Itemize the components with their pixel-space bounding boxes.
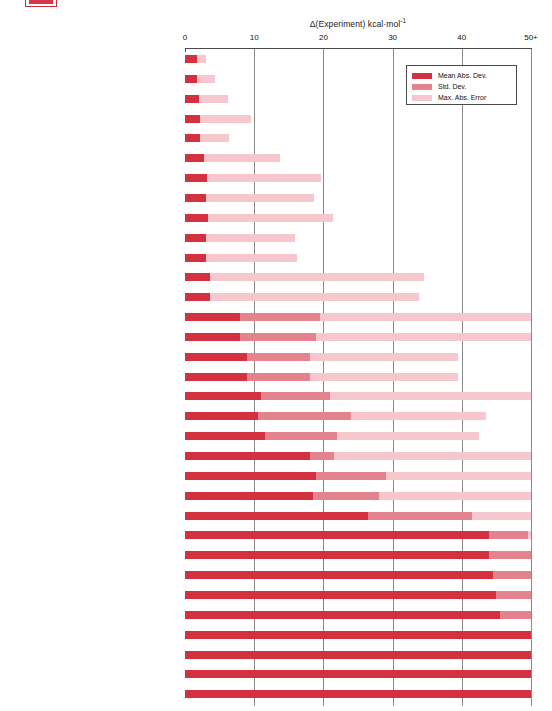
bar-row: MP2/6-31+G(d,p) // MP2/6-31+G(d,p) — [185, 412, 531, 420]
x-axis-title-superscript: -1 — [400, 17, 406, 24]
bar-segment-mad — [185, 174, 207, 182]
bar-segment-max — [185, 273, 424, 281]
x-axis-title: Δ(Experiment) kcal·mol-1 — [185, 17, 531, 29]
bar-row: B3LYP/6-311+G(2d,p) // B3LYP/6-31G(d) — [185, 194, 531, 202]
legend-label-max-abs-error: Max. Abs. Error — [438, 94, 486, 101]
bar-segment-mad — [185, 531, 489, 539]
bar-row: B3LYP/6-31G(d) // AM1 — [185, 392, 531, 400]
bar-row: B3LYP/6-311+G(3df,2df,2p) // B3LYP/6-31G… — [185, 154, 531, 162]
bar-row: B3LYP/6-31+G(d,p) // B3LYP/6-31+G(d,p) — [185, 273, 531, 281]
bar-row: SVWN/6-311+G(2d,p) // SVWN/6-311+G(2d,p) — [185, 512, 531, 520]
bar-segment-mad — [185, 591, 496, 599]
bar-row: HF/6-311+G(2d,p) // B3LYP/6-31G(d) — [185, 551, 531, 559]
bar-segment-mad — [185, 412, 258, 420]
bar-segment-mad — [185, 392, 261, 400]
x-axis-tick-label: 50+ — [524, 33, 538, 42]
bar-segment-mad — [185, 571, 493, 579]
bar-segment-mad — [185, 75, 197, 83]
bar-row: PM3 // PM3 — [185, 452, 531, 460]
bar-segment-mad — [185, 333, 240, 341]
bar-segment-mad — [185, 452, 310, 460]
bar-chart: Δ(Experiment) kcal·mol-1 01020304050+ CB… — [0, 0, 552, 711]
bar-segment-mad — [185, 512, 368, 520]
bar-row: MP2/6-31+G(d,p) // HF/6-31G(d) — [185, 432, 531, 440]
legend-item: Std. Dev. — [412, 81, 511, 92]
bar-segment-max — [185, 293, 419, 301]
bar-row: HF/6-31G(d) // HF/6-31G(d) — [185, 631, 531, 639]
x-axis-tick-label: 10 — [250, 33, 259, 42]
bar-segment-mad — [185, 353, 247, 361]
bar-row: HF/3-21G(d) // HF/3-21G(d) — [185, 670, 531, 678]
x-axis-tick-label: 40 — [457, 33, 466, 42]
x-axis-tick-label: 20 — [319, 33, 328, 42]
bar-row: HF/6-31+G(d,p) // HF/6-31+G(d,p) — [185, 591, 531, 599]
bar-segment-mad — [185, 293, 210, 301]
bar-row: HF/6-31G(d) // AM1 — [185, 651, 531, 659]
bar-segment-mad — [185, 154, 204, 162]
bar-segment-mad — [185, 492, 313, 500]
bar-row: HF/6-31+G(d,p) // AM1 — [185, 611, 531, 619]
legend-label-std-dev: Std. Dev. — [438, 83, 466, 90]
bar-row: B3LYP/6-31+G(d,p) // B3LYP/6-31G(d) — [185, 293, 531, 301]
bar-row: CBS-4 — [185, 134, 531, 142]
bar-row: HF/6-31+G(d,p) // HF/6-31G(d) — [185, 571, 531, 579]
chart-legend: Mean Abs. Dev. Std. Dev. Max. Abs. Error — [406, 65, 517, 105]
bar-segment-mad — [185, 472, 316, 480]
bar-segment-mad — [185, 551, 489, 559]
bar-segment-mad — [185, 254, 206, 262]
bar-row: B3LYP/6-311+G(2d,p) // HF/3-21G(d) — [185, 214, 531, 222]
legend-swatch-max-abs-error — [412, 95, 432, 101]
legend-swatch-std-dev — [412, 84, 432, 90]
bar-row: CBS-Q — [185, 55, 531, 63]
bar-segment-mad — [185, 214, 208, 222]
bar-segment-mad — [185, 432, 265, 440]
bar-segment-mad — [185, 611, 500, 619]
bar-row: MP2/6-311+G(2d,p) // B3LYP/6-31G(d) — [185, 353, 531, 361]
bar-row: B3LYP/6-31G(d) // HF/3–21G(d) — [185, 333, 531, 341]
bar-segment-mad — [185, 670, 531, 678]
plot-area: CBS-QG2G2(MP2)G1CBS-4B3LYP/6-311+G(3df,2… — [185, 49, 531, 706]
bar-segment-mad — [185, 373, 247, 381]
bar-segment-mad — [185, 273, 210, 281]
bar-row: MP2/6-311+G(2d,p) // MP2/6-311+G(2d,p) — [185, 373, 531, 381]
bar-segment-mad — [185, 234, 206, 242]
bar-segment-mad — [185, 115, 200, 123]
bar-row: HF/STO-3G // HF/STO-3G — [185, 690, 531, 698]
x-axis-tick-label: 30 — [388, 33, 397, 42]
bar-segment-mad — [185, 651, 531, 659]
bar-row: SVWN5/6-311+G(2d,p) // SVWN5/6-311+G(2d,… — [185, 472, 531, 480]
bar-row: G1 — [185, 115, 531, 123]
legend-item: Max. Abs. Error — [412, 92, 511, 103]
bar-segment-mad — [185, 194, 206, 202]
bar-segment-mad — [185, 313, 240, 321]
bar-segment-mad — [185, 95, 199, 103]
x-axis-title-text: Δ(Experiment) kcal·mol — [310, 19, 401, 29]
gridline — [531, 49, 532, 706]
bar-segment-mad — [185, 690, 531, 698]
bar-segment-mad — [185, 134, 200, 142]
legend-label-mean-abs-dev: Mean Abs. Dev. — [438, 72, 487, 79]
legend-swatch-mean-abs-dev — [412, 73, 432, 79]
bar-segment-mad — [185, 631, 531, 639]
bar-row: BLYP/6-31+G(d,p) // BLYP/6-31+G(d,p) — [185, 234, 531, 242]
bar-row: AM1 // AM1 — [185, 492, 531, 500]
bar-row: B3LYP/6-311+G(2d,p) // B3LYP/6-311+G(2d,… — [185, 174, 531, 182]
x-axis-tick-label: 0 — [183, 33, 187, 42]
bar-segment-mad — [185, 55, 197, 63]
bar-row: B3LYP/6-31G(d) // B3LYP/6-31G(d) — [185, 313, 531, 321]
bar-row: HF/6-311+G(2d,p) // HF/6-31G(d) — [185, 531, 531, 539]
bar-row: BLYP/6-311+G(2d,p) // BLYP/6-311+G(2d,p) — [185, 254, 531, 262]
legend-item: Mean Abs. Dev. — [412, 70, 511, 81]
